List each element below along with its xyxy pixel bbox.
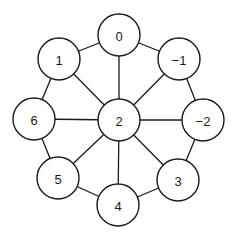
- wheel-graph-diagram: 0−1−2345612: [0, 0, 237, 236]
- node-label: −1: [172, 53, 187, 68]
- node-nm2: −2: [182, 99, 224, 141]
- node-nm1: −1: [158, 38, 200, 80]
- node-label: −2: [196, 114, 211, 129]
- node-n1: 1: [38, 38, 80, 80]
- node-label: 2: [115, 114, 122, 129]
- graph-svg: 0−1−2345612: [0, 0, 237, 236]
- node-label: 0: [115, 29, 122, 44]
- node-label: 3: [174, 174, 181, 189]
- node-label: 1: [55, 53, 62, 68]
- node-n0: 0: [98, 14, 140, 56]
- node-n4: 4: [97, 184, 139, 226]
- node-n5: 5: [37, 157, 79, 199]
- node-label: 4: [114, 199, 121, 214]
- node-n2: 2: [98, 99, 140, 141]
- node-n3: 3: [157, 159, 199, 201]
- node-n6: 6: [13, 98, 55, 140]
- nodes-layer: 0−1−2345612: [13, 14, 224, 226]
- node-label: 6: [30, 113, 37, 128]
- node-label: 5: [54, 172, 61, 187]
